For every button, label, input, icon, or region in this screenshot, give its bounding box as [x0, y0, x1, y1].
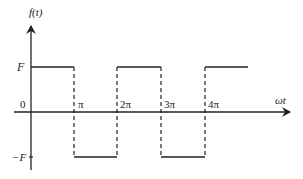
- tick-label-3pi: 3π: [164, 98, 176, 110]
- tick-label-4pi: 4π: [208, 98, 220, 110]
- tick-label-2pi: 2π: [120, 98, 132, 110]
- square-wave-diagram: f(t) ωt 0 F −F π 2π 3π 4π: [0, 0, 303, 179]
- tick-label-pi: π: [78, 98, 84, 110]
- y-axis-label: f(t): [29, 6, 43, 19]
- level-low-label: −F: [12, 151, 26, 163]
- origin-label: 0: [20, 98, 26, 110]
- level-high-label: F: [16, 60, 25, 74]
- x-axis-label: ωt: [275, 94, 287, 106]
